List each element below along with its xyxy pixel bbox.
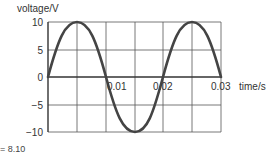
- x-axis-label: time/s: [239, 81, 266, 92]
- voltage-time-chart: voltage/V 10 5 0 −5 −10 0.01 0.02 0.03 t…: [0, 0, 271, 153]
- y-tick-10: 10: [32, 17, 44, 28]
- y-tick-5: 5: [37, 45, 43, 56]
- x-tick-002: 0.02: [153, 81, 173, 92]
- y-tick-0: 0: [37, 72, 43, 83]
- y-tick-neg5: −5: [32, 100, 44, 111]
- y-tick-neg10: −10: [26, 127, 43, 138]
- figure-caption-partial: = 8.10: [0, 144, 25, 153]
- x-tick-003: 0.03: [211, 81, 231, 92]
- y-axis-label: voltage/V: [17, 3, 59, 14]
- axes: [48, 22, 221, 132]
- x-tick-001: 0.01: [107, 81, 127, 92]
